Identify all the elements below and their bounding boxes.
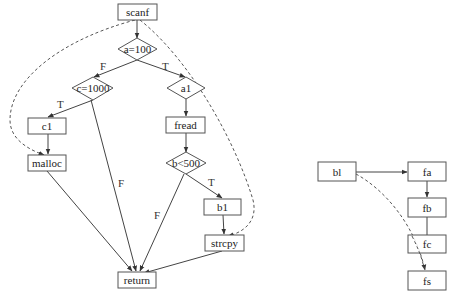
edge-label-a100-c1000: F: [100, 60, 106, 72]
node-label: fb: [422, 202, 432, 214]
edge-label-c1000-c1: T: [57, 98, 64, 110]
node-bl[interactable]: bl: [318, 162, 356, 181]
edge-b500-return: [140, 174, 184, 271]
node-label: return: [124, 274, 151, 286]
node-label: fa: [423, 166, 432, 178]
edge-label-c1000-return: F: [118, 177, 124, 189]
edge-a100-a1: [137, 60, 185, 77]
edge-b1-strcpy: [223, 215, 224, 234]
node-label: malloc: [32, 157, 62, 169]
node-fc[interactable]: fc: [408, 235, 446, 253]
node-a1[interactable]: a1: [167, 77, 205, 99]
node-label: b1: [217, 201, 228, 213]
edge-label-b500-b1: T: [208, 176, 215, 188]
node-label: a=100: [124, 43, 152, 55]
edge-strcpy-return: [144, 251, 222, 273]
node-c1[interactable]: c1: [28, 118, 66, 134]
node-label: scanf: [126, 6, 150, 18]
dashed-edge-bl-fs: [356, 174, 425, 270]
node-label: fc: [423, 238, 432, 250]
node-fb[interactable]: fb: [408, 198, 446, 217]
node-label: c=1000: [76, 82, 110, 94]
node-fs[interactable]: fs: [408, 271, 446, 290]
node-label: fs: [423, 275, 431, 287]
right-graph-edges: [356, 172, 427, 270]
node-b500[interactable]: b<500: [166, 152, 206, 174]
node-return[interactable]: return: [118, 272, 156, 288]
node-label: fread: [174, 119, 197, 131]
edge-c1000-c1: [48, 100, 93, 117]
node-strcpy[interactable]: strcpy: [205, 235, 244, 251]
edge-b500-b1: [186, 174, 222, 198]
node-c1000[interactable]: c=1000: [72, 77, 113, 100]
flow-diagram: F T T F T F scanf a=100 c=1000 a1 c1 fre…: [0, 0, 461, 298]
edge-label-b500-return: F: [154, 209, 160, 221]
edge-label-a100-a1: T: [162, 60, 169, 72]
node-label: a1: [181, 82, 191, 94]
edge-c1000-return: [91, 100, 136, 271]
node-label: b<500: [172, 157, 201, 169]
node-a100[interactable]: a=100: [118, 38, 157, 60]
node-label: c1: [42, 120, 52, 132]
node-malloc[interactable]: malloc: [28, 155, 66, 171]
node-fread[interactable]: fread: [166, 117, 205, 133]
node-b1[interactable]: b1: [204, 199, 241, 215]
node-scanf[interactable]: scanf: [118, 4, 157, 20]
node-fa[interactable]: fa: [408, 162, 446, 181]
node-label: bl: [333, 166, 342, 178]
node-label: strcpy: [211, 237, 238, 249]
